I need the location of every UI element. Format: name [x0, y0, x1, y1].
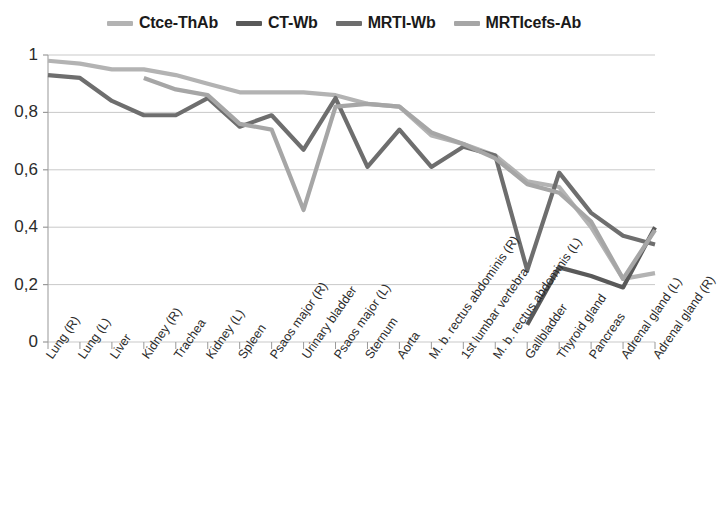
- y-tick-label: 1: [0, 46, 38, 63]
- axes: [43, 55, 48, 342]
- y-tick-label: 0,8: [0, 103, 38, 120]
- y-tick-label: 0,6: [0, 161, 38, 178]
- y-tick-label: 0,2: [0, 276, 38, 293]
- y-tick-label: 0: [0, 333, 38, 350]
- y-tick-label: 0,4: [0, 218, 38, 235]
